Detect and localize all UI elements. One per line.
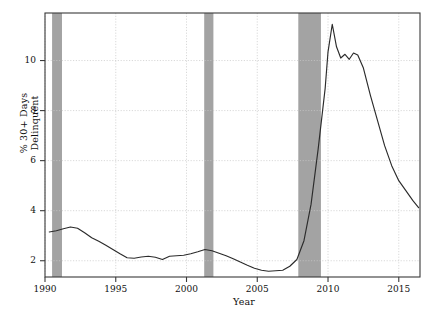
x-axis-tick-label: 1990 [28,284,62,294]
x-axis-title: Year [233,296,255,307]
x-axis-tick-label: 2000 [170,284,204,294]
y-axis-tick-label: 2 [0,255,36,265]
y-axis-title: % 30+ Days Delinquent [18,88,40,158]
y-axis-tick-label: 10 [0,55,36,65]
x-axis-tick-label: 2005 [240,284,274,294]
chart-figure: % 30+ Days Delinquent Year 2468101990199… [0,0,434,316]
recession-band [52,13,62,277]
y-axis-tick-label: 4 [0,205,36,215]
plot-background [45,13,420,277]
x-axis-tick-label: 1995 [99,284,133,294]
x-axis-tick-label: 2010 [311,284,345,294]
y-axis-tick-label: 6 [0,155,36,165]
recession-band [298,13,321,277]
y-axis-tick-label: 8 [0,105,36,115]
x-axis-tick-label: 2015 [382,284,416,294]
chart-plot-area [0,0,434,316]
recession-band [204,13,213,277]
